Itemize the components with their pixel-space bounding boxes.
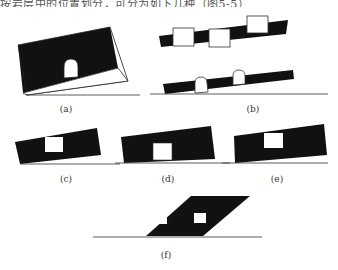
figure-b-label: (b) bbox=[238, 104, 268, 114]
figure-d-label: (d) bbox=[153, 174, 183, 184]
figure-a bbox=[18, 27, 140, 95]
strata-diagram bbox=[0, 0, 338, 270]
figure-f-label: (f) bbox=[151, 250, 181, 260]
figure-a-label: (a) bbox=[51, 104, 81, 114]
figure-b-upper bbox=[159, 16, 288, 47]
tunnel-arch-icon bbox=[64, 59, 78, 78]
figure-c-label: (c) bbox=[51, 174, 81, 184]
figure-c bbox=[15, 128, 120, 164]
figure-d bbox=[115, 126, 230, 163]
figure-f bbox=[93, 196, 262, 237]
figure-e bbox=[222, 124, 328, 163]
figure-e-label: (e) bbox=[262, 174, 292, 184]
figure-b-lower bbox=[150, 70, 328, 94]
